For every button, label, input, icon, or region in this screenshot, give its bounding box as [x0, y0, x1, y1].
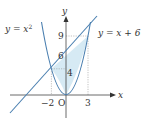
x-tick-3: 3 [85, 98, 91, 108]
y-axis-arrow-icon [64, 16, 69, 22]
y-tick-6: 6 [58, 51, 64, 61]
origin-label: O [58, 98, 65, 108]
x-tick-neg2: −2 [41, 98, 54, 108]
x-axis-label: x [118, 90, 123, 100]
curve-label: y = x2 [4, 23, 32, 35]
line-label: y = x + 6 [97, 28, 141, 38]
graph: y = x2 y = x + 6 x y 9 6 4 −2 O 3 [0, 0, 144, 126]
x-axis-arrow-icon [110, 93, 116, 98]
shaded-region [51, 36, 88, 95]
y-tick-4: 4 [67, 68, 73, 78]
y-tick-9: 9 [58, 31, 64, 41]
y-axis-label: y [61, 6, 68, 16]
